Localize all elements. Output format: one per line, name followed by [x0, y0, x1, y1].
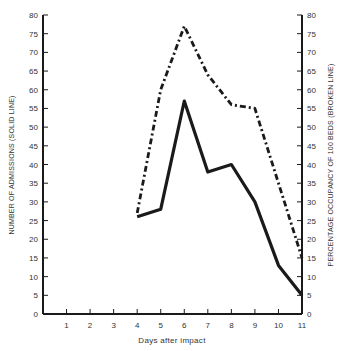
right-tick-label: 55	[307, 104, 316, 113]
left-tick-label: 15	[29, 254, 38, 263]
right-tick-label: 45	[307, 142, 316, 151]
admissions-line	[137, 101, 302, 295]
left-y-axis: 05101520253035404550556065707580	[29, 11, 48, 319]
right-tick-label: 15	[307, 254, 316, 263]
left-tick-label: 0	[34, 310, 39, 319]
chart: 05101520253035404550556065707580 0510152…	[0, 0, 346, 351]
x-tick-label: 9	[253, 321, 258, 330]
right-tick-label: 60	[307, 86, 316, 95]
x-tick-label: 4	[135, 321, 140, 330]
right-tick-label: 70	[307, 48, 316, 57]
left-tick-label: 80	[29, 11, 38, 20]
left-tick-label: 5	[34, 291, 39, 300]
x-tick-label: 8	[229, 321, 234, 330]
left-tick-label: 75	[29, 30, 38, 39]
x-axis-title: Days after impact	[138, 336, 206, 345]
x-tick-label: 2	[88, 321, 93, 330]
right-axis-title: PERCENTAGE OCCUPANCY OF 100 BEDS (BROKEN…	[327, 64, 335, 267]
x-tick-label: 7	[206, 321, 211, 330]
left-axis-title: NUMBER OF ADMISSIONS (SOLID LINE)	[8, 95, 16, 234]
right-tick-label: 50	[307, 123, 316, 132]
x-tick-label: 11	[298, 321, 307, 330]
left-tick-label: 60	[29, 86, 38, 95]
left-tick-label: 55	[29, 104, 38, 113]
x-tick-label: 5	[159, 321, 164, 330]
x-tick-label: 10	[274, 321, 283, 330]
right-tick-label: 65	[307, 67, 316, 76]
left-tick-label: 20	[29, 235, 38, 244]
right-tick-label: 40	[307, 161, 316, 170]
x-axis: 1234567891011	[43, 309, 307, 330]
left-tick-label: 45	[29, 142, 38, 151]
left-tick-label: 25	[29, 217, 38, 226]
left-tick-label: 40	[29, 161, 38, 170]
left-tick-label: 10	[29, 273, 38, 282]
right-tick-label: 10	[307, 273, 316, 282]
series-layer	[137, 26, 302, 295]
occupancy-line	[137, 26, 302, 258]
right-tick-label: 35	[307, 179, 316, 188]
right-tick-label: 80	[307, 11, 316, 20]
right-tick-label: 5	[307, 291, 312, 300]
x-tick-label: 3	[111, 321, 116, 330]
left-tick-label: 30	[29, 198, 38, 207]
left-tick-label: 35	[29, 179, 38, 188]
right-tick-label: 0	[307, 310, 312, 319]
x-tick-label: 1	[64, 321, 69, 330]
right-tick-label: 25	[307, 217, 316, 226]
right-tick-label: 75	[307, 30, 316, 39]
right-y-axis: 05101520253035404550556065707580	[297, 11, 316, 319]
x-tick-label: 6	[182, 321, 187, 330]
left-tick-label: 50	[29, 123, 38, 132]
left-tick-label: 70	[29, 48, 38, 57]
left-tick-label: 65	[29, 67, 38, 76]
right-tick-label: 20	[307, 235, 316, 244]
right-tick-label: 30	[307, 198, 316, 207]
